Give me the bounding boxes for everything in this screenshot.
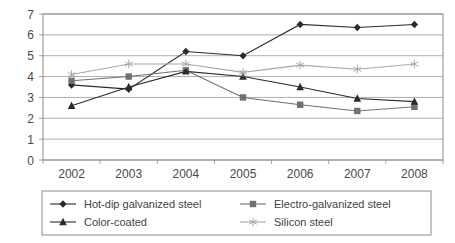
x-axis-ticks bbox=[43, 160, 443, 164]
y-axis-tick-label: 7 bbox=[27, 8, 34, 22]
line-chart: 01234567 2002200320042005200620072008 Ho… bbox=[0, 0, 455, 243]
x-axis-tick-label: 2002 bbox=[58, 167, 85, 181]
chart-canvas: 01234567 2002200320042005200620072008 Ho… bbox=[0, 0, 455, 243]
chart-legend: Hot-dip galvanized steelElectro-galvaniz… bbox=[42, 191, 431, 235]
x-axis-tick-label: 2008 bbox=[401, 167, 428, 181]
x-axis-tick-label: 2005 bbox=[230, 167, 257, 181]
x-axis-tick-label: 2007 bbox=[344, 167, 371, 181]
y-axis-tick-label: 2 bbox=[27, 112, 34, 126]
data-point-marker-square bbox=[240, 94, 246, 100]
x-axis-tick-label: 2003 bbox=[115, 167, 142, 181]
y-axis-tick-labels: 01234567 bbox=[27, 8, 43, 168]
data-point-marker-square bbox=[126, 73, 132, 79]
data-point-marker-square bbox=[354, 108, 360, 114]
x-axis-tick-label: 2004 bbox=[173, 167, 200, 181]
y-axis-tick-label: 3 bbox=[27, 91, 34, 105]
y-axis-tick-label: 6 bbox=[27, 28, 34, 42]
data-point-marker-square bbox=[250, 201, 256, 207]
y-axis-tick-label: 1 bbox=[27, 133, 34, 147]
legend-label: Hot-dip galvanized steel bbox=[84, 198, 201, 210]
y-axis-tick-label: 0 bbox=[27, 154, 34, 168]
data-point-marker-square bbox=[297, 102, 303, 108]
y-axis-tick-label: 5 bbox=[27, 49, 34, 63]
x-axis-tick-label: 2006 bbox=[287, 167, 314, 181]
legend-label: Color-coated bbox=[84, 216, 147, 228]
x-axis-tick-labels: 2002200320042005200620072008 bbox=[58, 167, 428, 181]
y-axis-tick-label: 4 bbox=[27, 70, 34, 84]
legend-label: Electro-galvanized steel bbox=[274, 198, 391, 210]
legend-label: Silicon steel bbox=[274, 216, 333, 228]
